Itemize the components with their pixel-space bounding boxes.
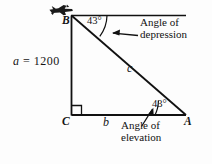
side-label-a: a — [13, 54, 20, 68]
angle-label-at-A: 43° — [152, 98, 167, 109]
right-angle-marker-icon — [72, 106, 82, 116]
callout-depression-line1: Angle of — [140, 17, 187, 29]
callout-angle-of-elevation: Angle of elevation — [121, 120, 161, 143]
callout-angle-of-depression: Angle of depression — [140, 17, 187, 40]
vertex-label-A: A — [184, 115, 192, 127]
angle-label-at-B: 43° — [87, 15, 102, 26]
callout-depression-line2: depression — [140, 29, 187, 41]
geometry-figure: B C A b c a = 1200 43° 43° Angle of depr… — [0, 0, 212, 164]
arrow-pointing-left-icon — [112, 30, 138, 36]
callout-elevation-line2: elevation — [121, 132, 161, 144]
side-label-c: c — [127, 62, 132, 75]
equals-sign: = — [23, 54, 30, 68]
vertex-label-C: C — [62, 115, 70, 127]
side-label-a-equation: a = 1200 — [13, 55, 60, 68]
side-a-value: 1200 — [34, 54, 60, 68]
side-label-b: b — [103, 116, 109, 129]
vertex-label-B: B — [62, 14, 70, 26]
callout-elevation-line1: Angle of — [121, 120, 161, 132]
